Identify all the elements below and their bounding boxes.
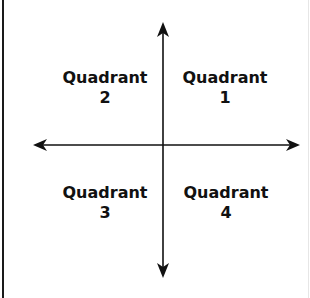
quadrant-2-number: 2 — [50, 88, 160, 108]
quadrant-3-label: Quadrant 3 — [50, 183, 160, 223]
quadrant-4-number: 4 — [171, 203, 281, 223]
quadrant-1-number: 1 — [170, 88, 280, 108]
quadrant-1-label: Quadrant 1 — [170, 68, 280, 108]
horizontal-axis — [33, 139, 300, 151]
quadrant-2-label: Quadrant 2 — [50, 68, 160, 108]
quadrant-4-label: Quadrant 4 — [171, 183, 281, 223]
quadrant-3-name: Quadrant — [50, 183, 160, 203]
quadrant-4-name: Quadrant — [171, 183, 281, 203]
vertical-axis — [157, 22, 169, 278]
quadrant-2-name: Quadrant — [50, 68, 160, 88]
quadrant-1-name: Quadrant — [170, 68, 280, 88]
quadrant-3-number: 3 — [50, 203, 160, 223]
